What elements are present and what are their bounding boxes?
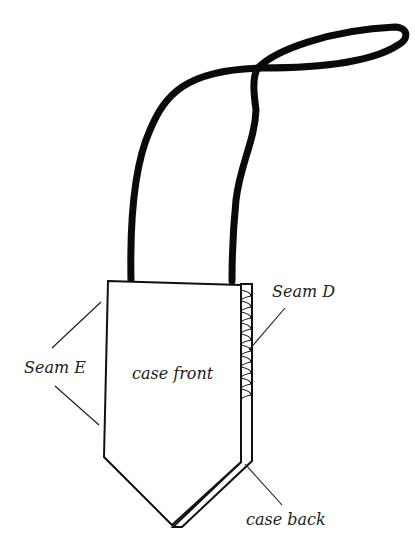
case-back-leader: [245, 464, 282, 505]
seam-d-label: Seam D: [272, 282, 335, 301]
case-back-label: case back: [246, 510, 326, 529]
case-front-label: case front: [132, 364, 214, 383]
strap: [131, 27, 406, 281]
seam-d-leader: [249, 308, 285, 350]
seam-e-leader-bottom: [55, 386, 99, 425]
case-diagram: Seam D Seam E case front case back: [0, 0, 415, 544]
seam-e-label: Seam E: [24, 358, 86, 377]
seam-e-leader-top: [52, 302, 101, 348]
